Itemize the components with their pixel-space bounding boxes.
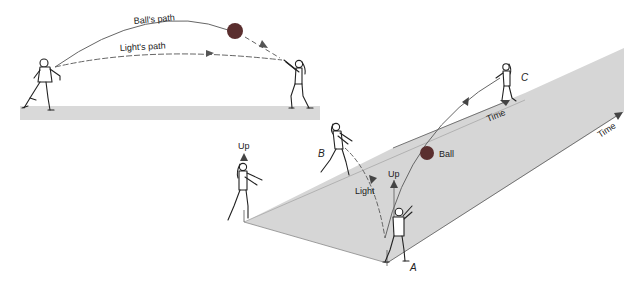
light-path-arrow-icon (206, 50, 214, 57)
spacetime-diagram: Ball's path Light's path (0, 0, 638, 287)
catcher-figure (284, 60, 313, 108)
top-floor (20, 106, 320, 120)
up-label-center: Up (388, 169, 400, 179)
ball-label: Ball (439, 149, 454, 159)
thrower-figure (22, 59, 60, 110)
light-label: Light (355, 186, 375, 196)
top-scene: Ball's path Light's path (20, 12, 320, 120)
light-path-curve (55, 54, 282, 67)
observer-c-figure (496, 64, 516, 101)
observer-b-figure (321, 123, 352, 175)
top-ball (227, 23, 243, 39)
point-a-label: A (409, 262, 417, 273)
observer-left-figure (228, 163, 262, 220)
bottom-scene: Time Time Ball Light Up Up A B C (228, 48, 624, 273)
up-arrow-left-icon (240, 153, 248, 161)
light-path-label: Light's path (120, 41, 166, 53)
ball-path-label: Ball's path (133, 12, 175, 26)
point-b-label: B (318, 148, 325, 159)
point-c-label: C (521, 72, 529, 83)
ball-path-dashed (245, 37, 280, 58)
bottom-ball (420, 146, 434, 160)
up-label-left: Up (238, 141, 250, 151)
ball-path-arrow-icon (259, 40, 268, 48)
